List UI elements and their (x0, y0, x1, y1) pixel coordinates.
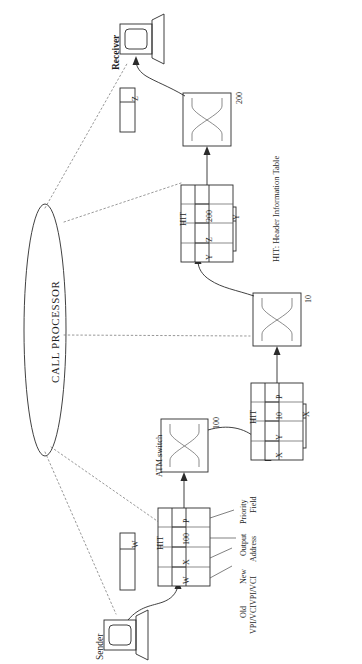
hit-table-3-title: HIT (179, 212, 188, 226)
hit-table-2-old-vpi-value: X (276, 452, 284, 458)
flow-switch3-to-receiver (136, 62, 185, 96)
hit-table-2-title: HIT (249, 410, 258, 424)
leader-old-vpi (210, 566, 232, 578)
annotation-old-vpi-line1: Old (240, 606, 248, 618)
atm-switch-3 (183, 93, 231, 146)
receiver-label: Receiver (112, 35, 122, 70)
switch-3-port-label: 200 (236, 92, 244, 104)
signalling-link-receiver (45, 62, 128, 208)
call-processor-label: CALL PROCESSOR (50, 281, 61, 383)
signalling-link-sender (45, 452, 116, 614)
flow-sender-to-hit1 (128, 586, 178, 620)
arrowhead-hit2-switch2 (274, 346, 281, 355)
arrowhead-switch3-receiver (133, 56, 140, 65)
cell-z-value: Z (132, 96, 140, 101)
switch-2-port-label: 10 (305, 295, 313, 303)
hit-table-3-old-vpi-value: Y (206, 254, 214, 260)
signalling-link-hit3 (64, 183, 181, 222)
leader-new-vpi (210, 548, 232, 558)
atm-switch-2 (253, 293, 301, 346)
arrowhead-hit1-switch1 (181, 472, 188, 481)
flow-switch2-to-hit3-curve (198, 261, 254, 296)
sender-label: Sender (96, 634, 106, 660)
arrowhead-hit3-switch3 (204, 146, 211, 155)
hit-table-3-new-vpi-value: Z (206, 237, 214, 242)
hit-table-3-output-value: 200 (206, 210, 214, 222)
annotation-output-line1: Output (240, 534, 248, 556)
annotation-priority-line2: Field (250, 497, 258, 513)
hit-table-2-output-value: 10 (276, 412, 284, 420)
cell-w-value: W (132, 540, 140, 548)
hit-table-1-title: HIT (156, 536, 165, 550)
hit-table-3 (181, 185, 233, 262)
annotation-output-line2: Address (250, 536, 258, 562)
hit-table-1-new-vpi-value: X (183, 559, 191, 565)
annotation-priority-line1: Priority (240, 500, 248, 524)
figure-canvas: CALL PROCESSOR Sender Receiver HIT: Head… (0, 0, 362, 664)
hit-table-2-new-vpi-value: Y (276, 434, 284, 440)
leader-priority (210, 510, 234, 518)
atm-switch-label: ATM switch (155, 435, 164, 477)
annotation-new-vpi-line2: VPI/VCI (250, 576, 258, 605)
hit-table-1-output-value: 100 (183, 533, 191, 545)
hit-table-1-old-vpi-value: W (183, 576, 191, 584)
hit-legend-caption: HIT: Header Information Table (272, 156, 281, 262)
hit-table-1-priority-value: P (183, 519, 191, 523)
hit-table-2-priority-value: P (276, 395, 284, 399)
receiver-monitor-icon (120, 14, 164, 64)
annotation-old-vpi-line2: VPI/VCI (250, 605, 258, 634)
atm-switch-1 (161, 419, 208, 472)
cell-z-box (120, 88, 135, 132)
switch-1-port-label: 100 (213, 417, 221, 429)
signalling-link-hit2 (64, 335, 250, 336)
sender-monitor-icon (104, 610, 148, 660)
cell-x-value: X (303, 411, 311, 417)
annotation-new-vpi-line1: New (240, 569, 248, 584)
cell-y-value: Y (233, 214, 241, 220)
